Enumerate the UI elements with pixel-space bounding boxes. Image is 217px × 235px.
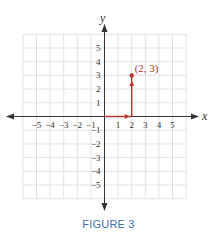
coordinate-plane: −5−4−3−2−112345−5−4−3−2−112345 (2, 3) x … (0, 0, 217, 215)
axes (6, 24, 199, 211)
x-tick-label: −5 (32, 120, 42, 130)
y-tick-label: 2 (96, 84, 101, 94)
y-tick-label: 3 (96, 70, 101, 80)
x-tick-label: −3 (59, 120, 69, 130)
y-tick-label: 5 (96, 43, 101, 53)
x-axis-label: x (201, 109, 208, 123)
y-tick-label: −3 (91, 153, 101, 163)
x-axis-left-arrow-icon (6, 114, 14, 120)
x-tick-label: 5 (170, 120, 175, 130)
x-tick-label: 4 (157, 120, 162, 130)
y-axis-label: y (99, 11, 106, 25)
y-tick-label: 4 (96, 57, 101, 67)
x-tick-label: 2 (129, 120, 134, 130)
y-axis-down-arrow-icon (102, 203, 108, 211)
y-tick-label: −1 (91, 125, 101, 135)
point-label: (2, 3) (135, 62, 159, 75)
x-tick-label: 1 (116, 120, 121, 130)
figure-caption: FIGURE 3 (0, 218, 217, 230)
y-tick-label: 1 (96, 98, 101, 108)
y-tick-label: −2 (91, 139, 101, 149)
right-arrowhead-icon (125, 114, 130, 119)
y-axis-up-arrow-icon (102, 24, 108, 32)
x-tick-label: −4 (45, 120, 55, 130)
path-to-point (105, 75, 135, 119)
x-tick-label: −2 (73, 120, 83, 130)
y-tick-label: −4 (91, 166, 101, 176)
data-point (130, 73, 134, 77)
x-axis-right-arrow-icon (191, 114, 199, 120)
y-tick-label: −5 (91, 180, 101, 190)
x-tick-label: 3 (143, 120, 148, 130)
up-arrowhead-icon (129, 81, 134, 86)
